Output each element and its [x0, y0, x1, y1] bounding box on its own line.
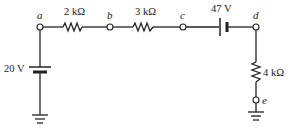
node-d-label: d	[253, 9, 259, 21]
resistor-4k-symbol	[252, 62, 260, 82]
resistor-2k-label: 2 kΩ	[64, 6, 85, 17]
resistor-4k-label: 4 kΩ	[263, 67, 284, 78]
node-b-label: b	[107, 9, 113, 21]
node-d-terminal	[253, 24, 259, 30]
resistor-3k-symbol	[133, 23, 153, 31]
resistor-2k-symbol	[63, 23, 82, 31]
node-a-terminal	[37, 24, 43, 30]
node-a-label: a	[37, 9, 43, 21]
resistor-3k-label: 3 kΩ	[135, 6, 156, 17]
node-e-label: e	[262, 94, 267, 106]
node-c-label: c	[180, 9, 185, 21]
node-e-terminal	[253, 97, 259, 103]
node-b-terminal	[107, 24, 113, 30]
battery-20v-label: 20 V	[4, 63, 25, 74]
circuit-diagram: a b c d e 2 kΩ 3 kΩ 47 V 4 kΩ 20 V	[0, 0, 289, 137]
node-c-terminal	[180, 24, 186, 30]
battery-47v-label: 47 V	[211, 3, 232, 14]
